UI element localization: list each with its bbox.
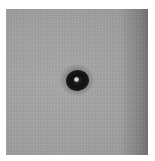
bright-center-spot (74, 77, 79, 82)
photo-panel (6, 9, 148, 155)
